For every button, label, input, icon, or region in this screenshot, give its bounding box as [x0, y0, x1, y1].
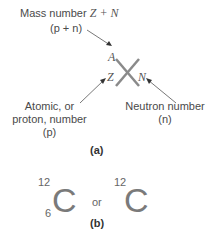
left-carbon-symbol: C: [52, 183, 77, 217]
atomic-number-label: Atomic, or proton, number (p): [12, 100, 87, 139]
left-mass-number: 12: [38, 176, 50, 188]
right-carbon-symbol: C: [124, 183, 149, 217]
mass-number-label: Mass number Z + N: [20, 7, 118, 20]
caption-a: (a): [90, 144, 103, 156]
neutron-number-label: Neutron number (n): [120, 100, 210, 126]
symbol-z: Z: [107, 70, 114, 85]
caption-b: (b): [90, 217, 104, 229]
or-connector: or: [92, 196, 102, 209]
mass-number-subtitle: (p + n): [50, 22, 82, 35]
left-atomic-number: 6: [45, 207, 51, 219]
symbol-a: A: [108, 50, 115, 65]
symbol-n: N: [138, 70, 146, 85]
